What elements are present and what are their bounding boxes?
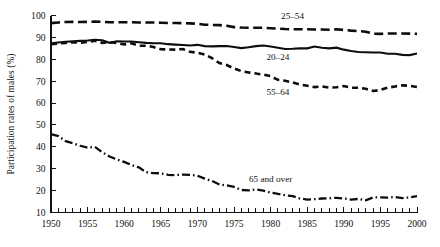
y-axis-tick-label: 60 [36, 97, 46, 108]
y-axis-tick-label: 20 [36, 185, 46, 196]
x-axis-tick-label: 1975 [224, 218, 243, 229]
series-label-65-and-over: 65 and over [249, 174, 292, 184]
series-label-25-54: 25–54 [281, 11, 304, 21]
y-axis-tick-label: 80 [36, 54, 46, 65]
x-axis-tick-label: 1970 [188, 218, 207, 229]
y-axis-tick-label: 90 [36, 32, 46, 43]
y-axis-tick-label: 10 [36, 207, 46, 218]
y-axis-tick-label: 50 [36, 119, 46, 130]
y-axis-title-text: Participation rates of males (%) [6, 54, 17, 175]
y-axis-tick-label: 30 [36, 163, 46, 174]
chart-axes: 1020304050607080901001950195519601965197… [31, 10, 427, 229]
x-axis-tick-label: 1950 [41, 218, 60, 229]
chart-series [51, 22, 417, 201]
x-axis-tick-label: 1980 [261, 218, 280, 229]
y-axis-tick-label: 40 [36, 141, 46, 152]
series-line-55-64 [51, 41, 417, 91]
x-axis-tick-label: 1985 [298, 218, 317, 229]
x-axis-tick-label: 2000 [407, 218, 426, 229]
participation-rate-line-chart: 1020304050607080901001950195519601965197… [0, 0, 440, 247]
y-axis-title: Participation rates of males (%) [6, 54, 17, 175]
series-label-20-24: 20–24 [266, 52, 289, 62]
y-axis-tick-label: 70 [36, 76, 46, 87]
x-axis-tick-label: 1955 [78, 218, 97, 229]
y-axis-tick-label: 100 [31, 10, 46, 21]
x-axis-tick-label: 1965 [151, 218, 170, 229]
x-axis-tick-label: 1990 [334, 218, 353, 229]
series-label-55-64: 55–64 [266, 87, 289, 97]
series-line-65-and-over [51, 134, 417, 200]
chart-series-labels: 25–5420–2455–6465 and over [249, 11, 305, 184]
series-line-25-54 [51, 22, 417, 34]
chart-figure: 1020304050607080901001950195519601965197… [0, 0, 440, 247]
x-axis-tick-label: 1960 [115, 218, 134, 229]
x-axis-tick-label: 1995 [371, 218, 390, 229]
